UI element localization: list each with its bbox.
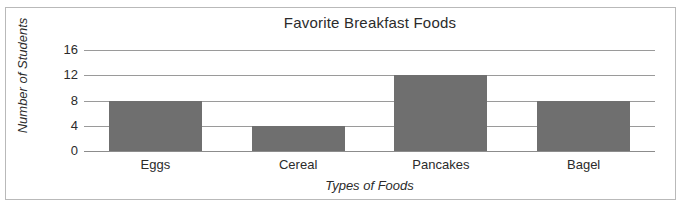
y-tick-label-16: 16 <box>38 43 78 56</box>
bar-cereal <box>252 126 345 151</box>
chart-title: Favorite Breakfast Foods <box>84 14 656 31</box>
chart-figure: Favorite Breakfast Foods Number of Stude… <box>0 0 683 210</box>
y-axis-ticks: 0481216 <box>36 50 78 151</box>
x-axis-title: Types of Foods <box>84 178 655 193</box>
y-tick-label-12: 12 <box>38 68 78 81</box>
y-tick-label-0: 0 <box>38 144 78 157</box>
y-axis-title: Number of Students <box>15 16 30 136</box>
bar-series <box>84 50 655 151</box>
bar-bagel <box>537 101 630 152</box>
x-axis-ticks: EggsCerealPancakesBagel <box>84 157 655 175</box>
y-tick-label-8: 8 <box>38 94 78 107</box>
bar-eggs <box>109 101 202 152</box>
y-tick-label-4: 4 <box>38 119 78 132</box>
x-tick-label-bagel: Bagel <box>512 157 655 172</box>
gridline-0 <box>84 151 655 152</box>
plot-area <box>84 50 655 151</box>
x-tick-label-eggs: Eggs <box>84 157 227 172</box>
x-tick-label-pancakes: Pancakes <box>370 157 513 172</box>
bar-pancakes <box>394 75 487 151</box>
x-tick-label-cereal: Cereal <box>227 157 370 172</box>
